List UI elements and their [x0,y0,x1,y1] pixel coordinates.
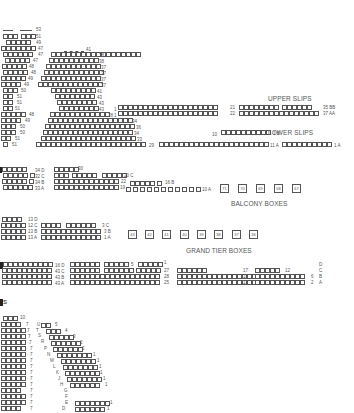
seat[interactable] [11,124,16,129]
seat[interactable] [21,376,26,381]
box-38[interactable]: 38 [214,230,223,239]
seat[interactable] [141,142,146,147]
seat[interactable] [21,229,26,234]
seat[interactable] [21,358,26,363]
seat[interactable] [21,394,26,399]
seat[interactable] [21,235,26,240]
seat[interactable] [21,382,26,387]
seat[interactable] [114,185,119,190]
seat[interactable] [21,352,26,357]
seat[interactable] [48,262,53,267]
seat[interactable] [300,274,305,279]
box-40[interactable]: 40 [180,230,189,239]
seat[interactable] [21,346,26,351]
box-36[interactable]: 36 [249,230,258,239]
seat[interactable] [202,268,207,273]
seat[interactable] [21,334,26,339]
seat[interactable] [264,142,269,147]
box-37[interactable]: 37 [232,230,241,239]
seat[interactable] [47,280,52,285]
seat[interactable] [21,364,26,369]
seat[interactable] [28,52,33,57]
seat[interactable] [21,112,26,117]
seat[interactable] [16,322,21,327]
seat[interactable] [93,365,98,370]
seat[interactable] [56,329,61,334]
seat[interactable] [21,328,26,333]
seat[interactable] [96,229,101,234]
seat[interactable] [96,235,101,240]
box-71[interactable]: 71 [220,184,229,193]
row-label: 53 [36,27,41,33]
seat[interactable] [124,262,129,267]
row-label: 10 A [202,187,211,193]
seat[interactable] [114,179,119,184]
seat[interactable] [8,106,13,111]
box-39[interactable]: 39 [197,230,206,239]
box-42[interactable]: 42 [145,230,154,239]
seat[interactable] [91,88,96,93]
seat[interactable] [128,130,133,135]
seat[interactable] [22,167,27,172]
seat[interactable] [8,100,13,105]
box-69[interactable]: 69 [256,184,265,193]
box-67[interactable]: 67 [292,184,301,193]
seat[interactable] [275,268,280,273]
seat[interactable] [21,400,26,405]
seat[interactable] [29,179,34,184]
seat[interactable] [157,181,162,186]
seat[interactable] [26,40,31,45]
seat[interactable] [8,94,13,99]
seat[interactable] [21,76,26,81]
seat[interactable] [16,406,21,411]
seat[interactable] [136,52,141,57]
seat[interactable] [156,268,161,273]
seat[interactable] [213,111,218,116]
seat[interactable] [91,223,96,228]
seat[interactable] [307,105,312,110]
box-43[interactable]: 43 [128,230,137,239]
seat[interactable] [47,268,52,273]
seat[interactable] [21,340,26,345]
seat[interactable] [16,388,21,393]
seat[interactable] [3,142,8,147]
seat[interactable] [16,82,21,87]
seat[interactable] [25,58,30,63]
seat[interactable] [90,94,95,99]
lower-slips-title: LOWER SLIPS [268,129,313,136]
seat[interactable] [11,130,16,135]
seat[interactable] [47,274,52,279]
row-line [20,30,32,31]
box-70[interactable]: 70 [238,184,247,193]
seat[interactable] [21,370,26,375]
seat[interactable] [22,64,27,69]
seat[interactable] [327,142,332,147]
seat[interactable] [314,111,319,116]
seat[interactable] [28,185,33,190]
seat[interactable] [91,359,96,364]
seat[interactable] [46,323,51,328]
seat[interactable] [158,262,163,267]
seat[interactable] [23,70,28,75]
seat[interactable] [155,280,160,285]
box-68[interactable]: 68 [274,184,283,193]
seat[interactable] [17,217,22,222]
seat[interactable] [97,377,102,382]
seat[interactable] [6,136,11,141]
seat[interactable] [31,46,36,51]
seat[interactable] [196,187,201,192]
seat[interactable] [95,383,100,388]
seat[interactable] [155,274,160,279]
box-41[interactable]: 41 [162,230,171,239]
seat[interactable] [92,100,97,105]
seat[interactable] [131,136,136,141]
seat[interactable] [100,407,105,412]
seat[interactable] [130,124,135,129]
seat[interactable] [16,118,21,123]
seat[interactable] [213,105,218,110]
seat[interactable] [13,316,18,321]
seat[interactable] [300,280,305,285]
seat[interactable] [87,353,92,358]
seat[interactable] [21,223,26,228]
seat[interactable] [13,88,18,93]
